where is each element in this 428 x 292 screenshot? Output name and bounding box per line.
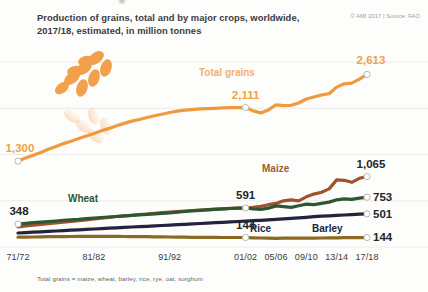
page-title: Production of grains, total and by major… [37, 11, 327, 38]
value-label-total-grains-end: 2,613 [357, 54, 386, 66]
x-tick-01-02: 01/02 [234, 252, 257, 262]
cropped-header-glyphs: ◉ ˈ [118, 0, 141, 5]
series-label-maize: Maize [262, 163, 290, 174]
value-label-barley-end: 144 [373, 231, 393, 243]
series-label-wheat: Wheat [68, 193, 99, 204]
marker-barley-mid [243, 234, 249, 240]
value-label-wheat-start: 348 [9, 205, 29, 217]
value-label-rice-end: 501 [373, 208, 393, 220]
x-tick-17-18: 17/18 [355, 252, 378, 262]
title-line-1: Production of grains, total and by major… [37, 12, 299, 23]
credit-source: © AMI 2017 | Source: FAO [351, 13, 421, 19]
top-cropped-strip: ◉ ˈ [0, 0, 428, 9]
value-label-wheat-mid: 591 [236, 189, 256, 201]
value-label-total-grains-mid: 2,111 [232, 89, 260, 101]
x-tick-71-72: 71/72 [6, 252, 29, 262]
x-tick-09-10: 09/10 [295, 252, 318, 262]
marker-wheat-start [15, 221, 21, 227]
x-axis: 71/7281/8291/9201/0205/0609/1013/1417/18 [0, 252, 428, 268]
series-label-total-grains: Total grains [199, 67, 255, 78]
marker-maize-end [364, 174, 370, 180]
series-line-barley [18, 236, 367, 238]
value-label-maize-end: 1,065 [357, 158, 386, 170]
marker-barley-end [364, 234, 370, 240]
chart-footnote: Total grains = maize, wheat, barley, ric… [37, 275, 203, 282]
value-label-barley-mid: 144 [236, 219, 256, 231]
x-tick-13-14: 13/14 [325, 252, 348, 262]
x-tick-05-06: 05/06 [264, 252, 287, 262]
line-chart-svg: Total grainsMaizeWheatRiceBarley 1,3002,… [0, 44, 428, 251]
x-tick-91-92: 91/92 [158, 252, 181, 262]
chart-figure: ◉ ˈ Production of grains, total and by m… [0, 0, 428, 292]
marker-wheat-end [364, 194, 370, 200]
value-label-total-grains-start: 1,300 [6, 142, 35, 154]
data-series [18, 74, 367, 238]
marker-wheat-mid [243, 205, 249, 211]
plot-area: Total grainsMaizeWheatRiceBarley 1,3002,… [0, 44, 428, 251]
marker-total-grains-mid [243, 104, 249, 110]
marker-rice-end [364, 211, 370, 217]
marker-total-grains-end [364, 71, 370, 77]
marker-total-grains-start [15, 158, 21, 164]
x-tick-81-82: 81/82 [82, 252, 105, 262]
title-line-2: 2017/18, estimated, in million tonnes [37, 25, 201, 36]
series-label-barley: Barley [312, 223, 343, 234]
value-label-wheat-end: 753 [373, 191, 392, 203]
